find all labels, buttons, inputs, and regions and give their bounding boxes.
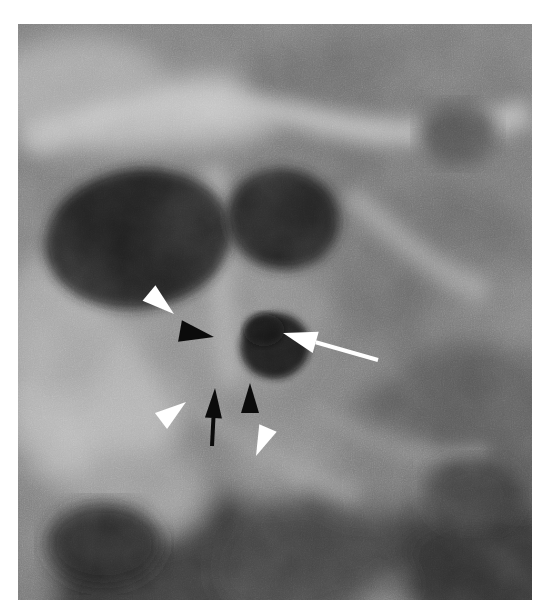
caption-strip: [0, 600, 542, 614]
micrograph-canvas: [18, 24, 532, 600]
fine-mottle: [18, 24, 532, 600]
micrograph-image: [18, 24, 532, 600]
figure-root: [0, 0, 542, 614]
